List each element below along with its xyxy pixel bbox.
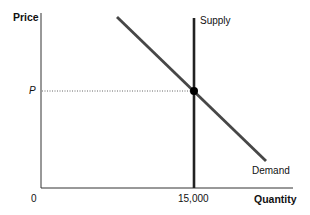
quantity-tick-label: 15,000 bbox=[178, 194, 209, 204]
supply-demand-diagram bbox=[0, 0, 310, 215]
x-axis-label: Quantity bbox=[254, 194, 297, 205]
y-axis-label: Price bbox=[13, 12, 39, 23]
supply-label: Supply bbox=[200, 16, 231, 26]
equilibrium-point bbox=[190, 87, 198, 95]
origin-label: 0 bbox=[31, 194, 37, 204]
price-tick-label: P bbox=[29, 86, 36, 96]
demand-label: Demand bbox=[252, 166, 290, 176]
